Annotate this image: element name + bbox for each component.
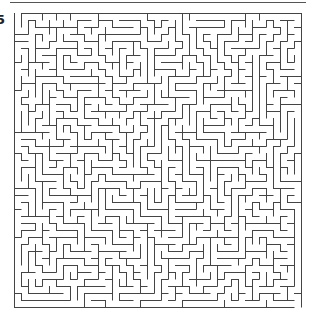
maze-grid	[0, 0, 310, 324]
maze-walls	[14, 13, 302, 308]
